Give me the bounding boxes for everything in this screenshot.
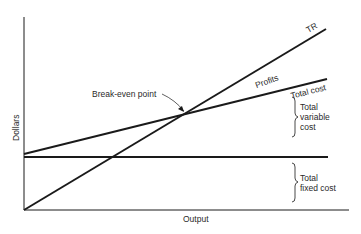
fixed-cost-label-2: fixed cost xyxy=(300,183,337,193)
fixed-cost-brace xyxy=(292,163,298,202)
total-cost-label: Total cost xyxy=(290,82,328,101)
break-even-chart: TR Profits Total cost Break-even point T… xyxy=(0,0,361,234)
total-cost-line xyxy=(24,79,327,154)
variable-cost-label-3: cost xyxy=(300,122,316,132)
variable-cost-label-1: Total xyxy=(300,102,318,112)
tr-label: TR xyxy=(304,20,319,34)
variable-cost-label-2: variable xyxy=(300,112,330,122)
break-even-label: Break-even point xyxy=(92,89,157,99)
x-axis-label: Output xyxy=(183,214,209,224)
fixed-cost-label-1: Total xyxy=(300,173,318,183)
arrow-head-icon xyxy=(178,106,184,112)
y-axis-label: Dollars xyxy=(11,115,21,141)
total-revenue-line xyxy=(24,29,326,210)
variable-cost-brace xyxy=(292,97,298,137)
profits-label: Profits xyxy=(254,72,280,90)
